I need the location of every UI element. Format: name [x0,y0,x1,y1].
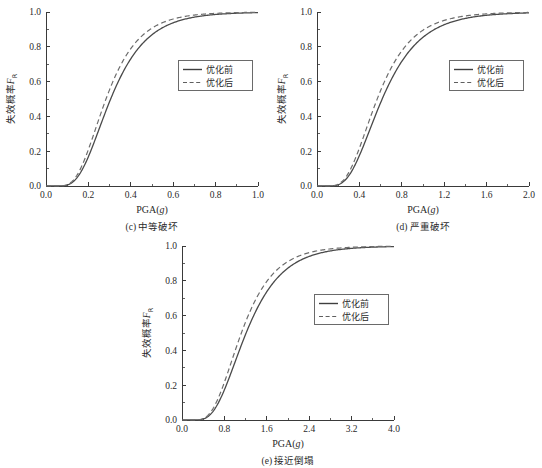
series-curve-after [182,246,394,420]
y-axis-title: 失效概率FR [276,73,290,124]
y-tick-label: 0.2 [29,147,41,157]
x-tick-label: 0.0 [176,424,188,434]
x-tick-label: 0.0 [40,190,52,200]
y-tick-label: 0.8 [165,276,177,286]
y-tick-label: 0.4 [165,346,177,356]
x-tick-label: 0.4 [353,190,365,200]
y-tick-label: 0.6 [300,77,312,87]
y-tick-label: 0.6 [165,311,177,321]
x-axis-ticks-c: 0.00.20.40.60.81.0 [40,182,264,200]
x-axis-title: PGA(g) [407,204,439,216]
y-tick-label: 0.6 [29,77,41,87]
chart-panel-d: 0.00.40.81.21.62.00.00.20.40.60.81.0优化前优… [271,0,542,234]
y-tick-label: 0.0 [300,181,312,191]
series-curve-before [46,13,258,186]
x-tick-label: 1.2 [438,190,450,200]
axes-c [46,12,258,186]
fragility-figure: 0.00.20.40.60.81.00.00.20.40.60.81.0优化前优… [0,0,542,468]
x-tick-label: 0.2 [82,190,94,200]
y-tick-label: 0.2 [300,147,312,157]
x-tick-label: 2.4 [303,424,315,434]
x-axis-ticks-d: 0.00.40.81.21.62.0 [311,182,535,200]
legend-c: 优化前优化后 [178,60,252,90]
y-axis-title: 失效概率FR [5,73,19,124]
series-curve-before [317,13,529,186]
plot-area-c: 0.00.20.40.60.81.00.00.20.40.60.81.0优化前优… [0,0,271,234]
legend-label-before: 优化前 [477,64,504,75]
x-tick-label: 4.0 [388,424,400,434]
series-curve-after [46,12,258,186]
x-tick-label: 0.0 [311,190,323,200]
y-axis-title: 失效概率FR [141,307,155,358]
legend-label-after: 优化后 [342,311,369,322]
legend-label-before: 优化前 [206,64,233,75]
x-tick-label: 0.8 [396,190,408,200]
legend-label-after: 优化后 [206,77,233,88]
legend-e: 优化前优化后 [314,294,388,324]
legend-d: 优化前优化后 [449,60,523,90]
axis-spine [182,246,394,420]
curves-e [182,246,394,420]
y-axis-ticks-c: 0.00.20.40.60.81.0 [29,7,50,191]
x-tick-label: 2.0 [523,190,535,200]
y-tick-label: 0.8 [300,42,312,52]
axis-spine [46,12,258,186]
chart-panel-c: 0.00.20.40.60.81.00.00.20.40.60.81.0优化前优… [0,0,271,234]
y-tick-label: 0.4 [300,112,312,122]
y-tick-label: 1.0 [300,7,312,17]
x-tick-label: 0.4 [125,190,137,200]
series-curve-after [317,12,529,186]
panel-caption: (d) 严重破坏 [396,221,449,233]
legend-label-after: 优化后 [477,77,504,88]
x-tick-label: 1.0 [252,190,264,200]
x-tick-label: 1.6 [481,190,493,200]
y-tick-label: 1.0 [165,241,177,251]
x-axis-ticks-e: 0.00.81.62.43.24.0 [176,416,400,434]
y-tick-label: 0.0 [29,181,41,191]
y-tick-label: 1.0 [29,7,41,17]
chart-panel-e: 0.00.81.62.43.24.00.00.20.40.60.81.0优化前优… [136,234,407,468]
plot-area-e: 0.00.81.62.43.24.00.00.20.40.60.81.0优化前优… [136,234,407,468]
x-axis-title: PGA(g) [272,438,304,450]
y-tick-label: 0.0 [165,415,177,425]
legend-label-before: 优化前 [342,298,369,309]
x-axis-title: PGA(g) [136,204,168,216]
series-curve-before [182,247,394,420]
x-tick-label: 0.8 [218,424,230,434]
y-axis-ticks-d: 0.00.20.40.60.81.0 [300,7,321,191]
curves-c [46,12,258,186]
y-tick-label: 0.4 [29,112,41,122]
x-tick-label: 0.6 [167,190,179,200]
axes-e [182,246,394,420]
plot-area-d: 0.00.40.81.21.62.00.00.20.40.60.81.0优化前优… [271,0,542,234]
x-tick-label: 0.8 [210,190,222,200]
x-tick-label: 1.6 [261,424,273,434]
curves-d [317,12,529,186]
y-tick-label: 0.2 [165,381,177,391]
panel-caption: (e) 接近倒塌 [262,455,315,467]
panel-caption: (c) 中等破坏 [126,221,179,233]
y-tick-label: 0.8 [29,42,41,52]
y-axis-ticks-e: 0.00.20.40.60.81.0 [165,241,186,425]
x-tick-label: 3.2 [346,424,358,434]
